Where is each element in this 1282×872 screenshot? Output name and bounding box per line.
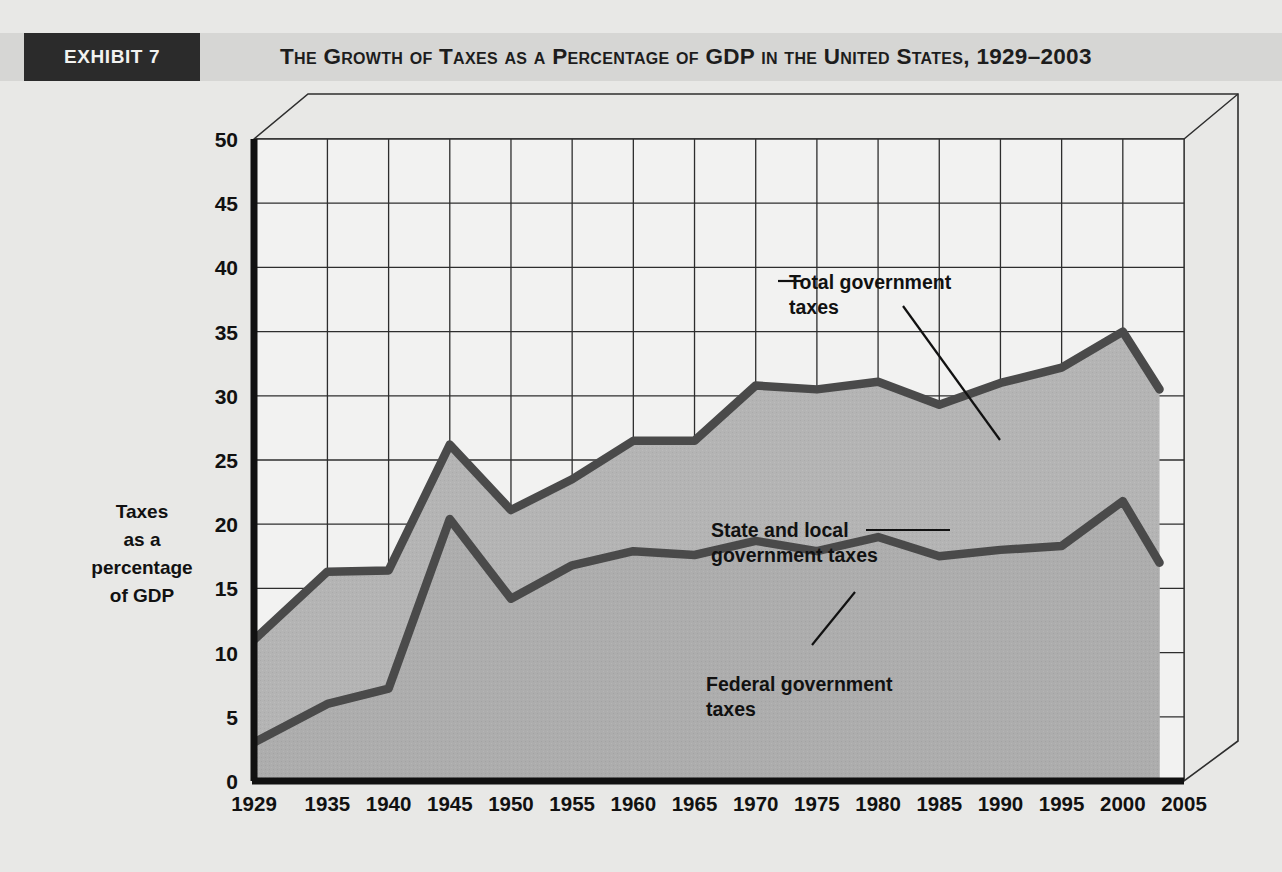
svg-text:1935: 1935 [305,792,351,815]
exhibit-badge: EXHIBIT 7 [24,33,200,81]
svg-text:25: 25 [215,449,239,472]
svg-text:1980: 1980 [855,792,901,815]
y-axis-title-line-4: of GDP [58,582,226,610]
annotation-federal-line-2: taxes [706,697,892,722]
annotation-federal-line-1: Federal government [706,672,892,697]
svg-text:30: 30 [215,385,238,408]
y-axis-title-line-1: Taxes [58,498,226,526]
exhibit-label: EXHIBIT 7 [64,46,160,68]
svg-text:0: 0 [226,770,238,793]
svg-text:1975: 1975 [794,792,840,815]
svg-text:5: 5 [226,706,238,729]
svg-text:1965: 1965 [672,792,718,815]
y-axis-title-line-3: percentage [58,554,226,582]
annotation-federal-government-taxes: Federal government taxes [706,672,892,722]
svg-text:45: 45 [215,192,239,215]
svg-text:35: 35 [215,321,239,344]
y-axis-title: Taxes as a percentage of GDP [58,498,226,610]
svg-text:40: 40 [215,256,238,279]
svg-text:1950: 1950 [488,792,534,815]
svg-text:1940: 1940 [366,792,412,815]
annotation-state-line-2: government taxes [711,543,878,568]
svg-text:10: 10 [215,642,238,665]
svg-text:1955: 1955 [549,792,595,815]
y-axis-title-line-2: as a [58,526,226,554]
svg-text:2005: 2005 [1161,792,1207,815]
annotation-total-government-taxes: Total government taxes [789,270,951,320]
page-bottom-strip [0,844,1282,872]
svg-text:1970: 1970 [733,792,779,815]
annotation-total-line-2: taxes [789,295,951,320]
svg-text:50: 50 [215,128,238,151]
svg-text:1995: 1995 [1039,792,1085,815]
annotation-total-line-1: Total government [789,270,951,295]
x-axis-tick-labels: 1929193519401945195019551960196519701975… [231,792,1207,815]
annotation-state-local-government-taxes: State and local government taxes [711,518,878,568]
chart-container: 05101520253035404550 1929193519401945195… [0,84,1282,844]
svg-text:1985: 1985 [916,792,962,815]
svg-text:1929: 1929 [231,792,277,815]
y-axis-tick-labels: 05101520253035404550 [215,128,239,793]
svg-text:1945: 1945 [427,792,473,815]
svg-text:1990: 1990 [978,792,1024,815]
page-title: The Growth of Taxes as a Percentage of G… [280,33,1092,81]
svg-text:1960: 1960 [611,792,657,815]
annotation-state-line-1: State and local [711,518,878,543]
area-chart: 05101520253035404550 1929193519401945195… [0,84,1282,844]
svg-text:2000: 2000 [1100,792,1146,815]
